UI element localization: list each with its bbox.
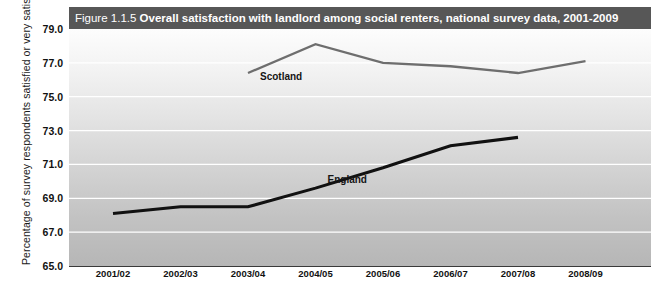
plot-area: ScotlandEngland (69, 29, 651, 266)
y-tick-label: 65.0 (19, 260, 63, 272)
y-tick-label: 77.0 (19, 57, 63, 69)
x-tick-label: 2002/03 (146, 268, 216, 279)
figure-title-bar: Figure 1.1.5 Overall satisfaction with l… (69, 7, 651, 29)
y-tick-label: 79.0 (19, 23, 63, 35)
y-axis-tick-labels: 65.067.069.071.073.075.077.079.0 (0, 0, 63, 284)
x-tick-label: 2007/08 (483, 268, 553, 279)
page-title: Overall satisfaction with landlord among… (140, 12, 619, 24)
figure-number: Figure 1.1.5 (75, 12, 136, 24)
x-axis-line (69, 266, 651, 267)
x-axis-tick-labels: 2001/022002/032003/042004/052005/062006/… (69, 268, 651, 284)
y-tick-label: 73.0 (19, 125, 63, 137)
x-tick-label: 2006/07 (416, 268, 486, 279)
y-tick-label: 71.0 (19, 158, 63, 170)
series-line-scotland (248, 44, 586, 73)
y-tick-label: 75.0 (19, 91, 63, 103)
x-tick-label: 2008/09 (551, 268, 621, 279)
x-tick-label: 2001/02 (78, 268, 148, 279)
x-tick-label: 2004/05 (281, 268, 351, 279)
x-tick-label: 2005/06 (348, 268, 418, 279)
figure-container: Percentage of survey respondents satisfi… (0, 0, 651, 284)
series-annotation-england: England (328, 174, 367, 185)
y-tick-label: 69.0 (19, 192, 63, 204)
series-line-england (113, 137, 518, 213)
series-annotation-scotland: Scotland (260, 71, 302, 82)
y-tick-label: 67.0 (19, 226, 63, 238)
x-tick-label: 2003/04 (213, 268, 283, 279)
chart-svg: ScotlandEngland (69, 29, 651, 266)
